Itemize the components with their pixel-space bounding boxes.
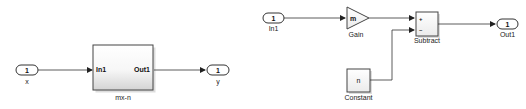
subsystem-out-port-label: Out1	[134, 66, 150, 73]
right-diagram: 1 In1 m Gain + – Subtract 1 Out1	[263, 7, 518, 101]
left-diagram: 1 x In1 Out1 mx-n 1 y	[16, 45, 229, 101]
constant-value: n	[357, 77, 361, 84]
subtract-label: Subtract	[414, 37, 440, 44]
constant-block[interactable]: n Constant	[344, 69, 372, 101]
inport-number: 1	[272, 15, 276, 22]
subsystem-in-port-label: In1	[96, 66, 106, 73]
subsystem-label: mx-n	[115, 94, 131, 101]
subsystem-block[interactable]: In1 Out1 mx-n	[93, 45, 156, 101]
signal-line[interactable]	[370, 30, 414, 80]
outport-number: 1	[506, 21, 510, 28]
gain-block[interactable]: m Gain	[347, 7, 369, 38]
outport-y-block[interactable]: 1 y	[207, 65, 229, 86]
subtract-block[interactable]: + – Subtract	[414, 12, 440, 44]
constant-label: Constant	[344, 94, 372, 101]
subtract-plus-sign: +	[419, 16, 423, 22]
outport-number: 1	[216, 67, 220, 74]
gain-label: Gain	[349, 31, 364, 38]
inport-label: In1	[269, 25, 279, 32]
outport-label: Out1	[500, 31, 515, 38]
outport-label: y	[216, 78, 220, 86]
inport-label: x	[25, 78, 29, 85]
inport-number: 1	[25, 67, 29, 74]
outport-out1-block[interactable]: 1 Out1	[497, 19, 518, 38]
simulink-canvas: 1 x In1 Out1 mx-n 1 y 1 In1	[0, 0, 526, 109]
gain-value: m	[350, 15, 356, 22]
inport-x-block[interactable]: 1 x	[16, 65, 38, 85]
inport-in1-block[interactable]: 1 In1	[263, 13, 284, 32]
